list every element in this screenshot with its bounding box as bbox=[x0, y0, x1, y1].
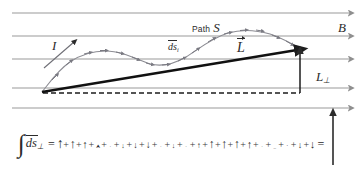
equation-term-arrow: ↓ bbox=[310, 139, 316, 150]
equation-integrand-symbol: ds bbox=[26, 136, 37, 151]
path-label-symbol: S bbox=[213, 20, 220, 35]
equation-term-arrow: ↑ bbox=[234, 138, 240, 150]
equation-term-arrow: ↓ bbox=[133, 141, 139, 150]
segment-label-ds-subscript: i bbox=[177, 46, 179, 53]
equation-plus-sign: + bbox=[126, 139, 132, 150]
equation-plus-sign: + bbox=[215, 139, 221, 150]
equation-term-arrow: · bbox=[158, 144, 164, 149]
equation-term-arrow: ↑ bbox=[57, 137, 63, 151]
equation-plus-sign: + bbox=[190, 139, 196, 150]
equation-plus-sign: + bbox=[152, 139, 158, 150]
equation-plus-sign: + bbox=[63, 139, 69, 150]
equation-term-list: ↑+↑+↑+⮝+·+↓+↓+↓+·+↓+·+↑+↑+↑+↑+↑+·+_+·+↓+… bbox=[57, 136, 316, 152]
displacement-label-L-symbol: L bbox=[237, 40, 245, 56]
equation-term-arrow: ↑ bbox=[208, 138, 214, 150]
equation-plus-sign: + bbox=[164, 139, 170, 150]
equation-term-arrow: ↑ bbox=[82, 139, 88, 150]
equation-term-arrow: · bbox=[183, 144, 189, 149]
equation-plus-sign: + bbox=[76, 139, 82, 150]
path-label-word: Path bbox=[192, 24, 210, 34]
perp-label-L-perp: L⊥ bbox=[316, 69, 330, 85]
equation-plus-sign: + bbox=[266, 139, 272, 150]
equation-integrand-subscript: ⊥ bbox=[37, 143, 44, 152]
equation-plus-sign: + bbox=[114, 139, 120, 150]
equation-plus-sign: + bbox=[303, 139, 309, 150]
equation-plus-sign: + bbox=[253, 139, 259, 150]
equation-plus-sign: + bbox=[177, 139, 183, 150]
equation-plus-sign: + bbox=[240, 139, 246, 150]
equation-term-arrow: ↑ bbox=[221, 137, 227, 150]
equation-term-arrow: · bbox=[284, 143, 290, 149]
current-direction-arrow bbox=[44, 42, 74, 68]
perp-label-subscript: ⊥ bbox=[323, 76, 330, 85]
equation-term-arrow: ↑ bbox=[69, 137, 75, 150]
equation-term-arrow: ↓ bbox=[171, 143, 177, 150]
path-direction-ticks bbox=[52, 30, 292, 80]
current-label-I: I bbox=[52, 38, 56, 54]
equation-plus-sign: + bbox=[89, 139, 95, 150]
path-integral-equation: ∫ ds⊥ = ↑+↑+↑+⮝+·+↓+↓+↓+·+↓+·+↑+↑+↑+↑+↑+… bbox=[18, 128, 337, 160]
displacement-label-L: L bbox=[237, 40, 245, 56]
equation-plus-sign: + bbox=[278, 139, 284, 150]
equation-term-arrow: ⮝ bbox=[95, 144, 101, 149]
equation-term-arrow: ↓ bbox=[145, 140, 151, 150]
equation-plus-sign: + bbox=[139, 139, 145, 150]
equation-result-placeholder bbox=[330, 136, 337, 152]
equation-plus-sign: + bbox=[291, 139, 297, 150]
equation-term-arrow: · bbox=[107, 144, 113, 149]
equation-equals-sign: = bbox=[48, 137, 55, 152]
equation-term-arrow: ↑ bbox=[246, 139, 252, 150]
equation-term-arrow: _ bbox=[272, 144, 278, 149]
equation-plus-sign: + bbox=[228, 139, 234, 150]
path-label: PathS bbox=[192, 20, 220, 36]
equation-integrand: ds⊥ bbox=[26, 136, 44, 151]
segment-label-ds-symbol: ds bbox=[168, 41, 177, 52]
equation-final-equals: = bbox=[318, 137, 325, 152]
equation-plus-sign: + bbox=[202, 139, 208, 150]
segment-label-ds: dsi bbox=[168, 41, 179, 53]
field-label-B: B bbox=[338, 20, 346, 36]
equation-plus-sign: + bbox=[101, 139, 107, 150]
equation-term-arrow: · bbox=[259, 144, 265, 149]
equation-term-arrow: ↑ bbox=[196, 142, 202, 150]
integral-icon: ∫ bbox=[18, 134, 25, 154]
